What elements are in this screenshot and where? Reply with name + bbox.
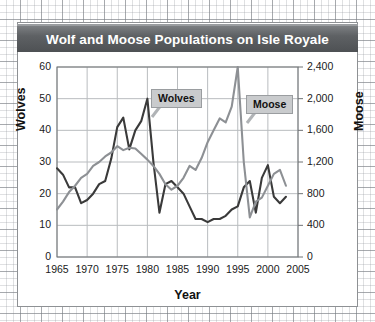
y-tick-right: 400	[307, 218, 341, 230]
x-tick: 2005	[281, 263, 315, 275]
y-axis-label-right: Moose	[352, 91, 366, 131]
y-tick-left: 60	[25, 60, 51, 72]
x-tick: 1980	[130, 263, 164, 275]
x-tick: 1985	[161, 263, 195, 275]
x-tick: 1995	[221, 263, 255, 275]
x-tick: 2000	[251, 263, 285, 275]
y-tick-left: 0	[25, 250, 51, 262]
x-tick: 1965	[40, 263, 74, 275]
y-tick-right: 800	[307, 187, 341, 199]
y-tick-right: 0	[307, 250, 341, 262]
x-axis-label: Year	[0, 288, 375, 302]
callout-label-moose: Moose	[246, 95, 293, 114]
y-tick-left: 20	[25, 187, 51, 199]
x-tick: 1975	[100, 263, 134, 275]
y-tick-right: 2,400	[307, 60, 341, 72]
y-tick-right: 1,200	[307, 155, 341, 167]
y-tick-left: 10	[25, 218, 51, 230]
y-tick-left: 50	[25, 92, 51, 104]
y-tick-left: 40	[25, 123, 51, 135]
x-tick: 1990	[191, 263, 225, 275]
callout-label-wolves: Wolves	[151, 89, 202, 108]
x-tick: 1970	[70, 263, 104, 275]
y-tick-right: 1,600	[307, 123, 341, 135]
y-tick-right: 2,000	[307, 92, 341, 104]
y-tick-left: 30	[25, 155, 51, 167]
